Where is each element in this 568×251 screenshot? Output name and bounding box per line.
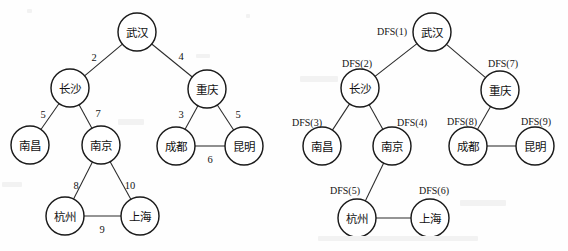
weighted-city-graph-panel: 武汉长沙重庆南昌南京成都昆明杭州上海 24573568109 (11, 13, 263, 235)
edge-changsha-nanjing (79, 105, 92, 129)
edge-weight-chongqing-chengdu: 3 (178, 109, 183, 120)
edge-weight-nanjing-hangzhou: 8 (73, 180, 78, 191)
dfs-order-label-nanjing: DFS(4) (397, 117, 427, 129)
edge-wuhan-chongqing (152, 44, 193, 77)
node-label-chengdu: 成都 (457, 141, 480, 153)
node-label-chengdu: 成都 (165, 141, 188, 153)
node-label-shanghai: 上海 (129, 210, 152, 223)
graph-diagram-svg: 武汉长沙重庆南昌南京成都昆明杭州上海 24573568109 武汉长沙重庆南昌南… (0, 0, 568, 251)
edge-weight-wuhan-changsha: 2 (91, 52, 96, 63)
node-label-hangzhou: 杭州 (54, 210, 76, 223)
dfs-order-label-changsha: DFS(2) (342, 58, 372, 70)
node-label-chongqing: 重庆 (489, 84, 512, 97)
dfs-order-label-nanchang: DFS(3) (292, 117, 322, 129)
node-label-changsha: 长沙 (349, 83, 372, 95)
dfs-order-label-wuhan: DFS(1) (377, 26, 407, 38)
edge-nanjing-hangzhou (365, 163, 383, 201)
node-label-wuhan: 武汉 (421, 27, 444, 39)
edge-weight-changsha-nanchang: 5 (40, 109, 45, 120)
node-label-kunming: 昆明 (524, 141, 546, 153)
node-label-nanchang: 南昌 (19, 139, 41, 152)
edge-changsha-nanjing (369, 105, 383, 130)
node-label-hangzhou: 杭州 (346, 212, 368, 225)
edge-weight-changsha-nanjing: 7 (95, 108, 100, 119)
edge-chongqing-chengdu (185, 106, 198, 130)
edge-chongqing-chengdu (477, 107, 490, 130)
edge-weight-nanjing-shanghai: 10 (125, 180, 136, 191)
dfs-order-label-chengdu: DFS(8) (447, 116, 477, 128)
dfs-order-label-chongqing: DFS(7) (488, 58, 518, 70)
node-label-wuhan: 武汉 (126, 27, 149, 39)
node-label-chongqing: 重庆 (196, 83, 219, 96)
dfs-traversal-graph-panel: 武汉长沙重庆南昌南京成都昆明杭州上海 DFS(1)DFS(2)DFS(7)DFS… (292, 13, 554, 237)
node-label-nanjing: 南京 (90, 139, 112, 152)
edge-changsha-nanchang (332, 104, 349, 130)
node-label-changsha: 长沙 (59, 83, 82, 95)
node-label-nanjing: 南京 (381, 140, 403, 153)
edge-weight-hangzhou-shanghai: 9 (99, 224, 104, 235)
dfs-graph-order-labels: DFS(1)DFS(2)DFS(7)DFS(3)DFS(4)DFS(8)DFS(… (292, 26, 551, 197)
edge-chongqing-kunming (217, 105, 233, 130)
node-label-kunming: 昆明 (233, 141, 255, 153)
figure-canvas: 武汉长沙重庆南昌南京成都昆明杭州上海 24573568109 武汉长沙重庆南昌南… (0, 0, 568, 251)
edge-weight-chongqing-kunming: 5 (235, 109, 240, 120)
edge-wuhan-changsha (375, 44, 417, 77)
dfs-order-label-kunming: DFS(9) (521, 116, 551, 128)
dfs-order-label-hangzhou: DFS(5) (330, 185, 360, 197)
dfs-order-label-shanghai: DFS(6) (419, 185, 449, 197)
weighted-graph-nodes: 武汉长沙重庆南昌南京成都昆明杭州上海 (11, 13, 263, 235)
dfs-graph-nodes: 武汉长沙重庆南昌南京成都昆明杭州上海 (303, 13, 554, 237)
edge-wuhan-changsha (85, 44, 123, 76)
edge-weight-chengdu-kunming: 6 (207, 154, 212, 165)
node-label-shanghai: 上海 (419, 212, 442, 225)
node-label-nanchang: 南昌 (311, 140, 333, 153)
edge-weight-wuhan-chongqing: 4 (178, 51, 184, 62)
edge-wuhan-chongqing (446, 44, 485, 77)
